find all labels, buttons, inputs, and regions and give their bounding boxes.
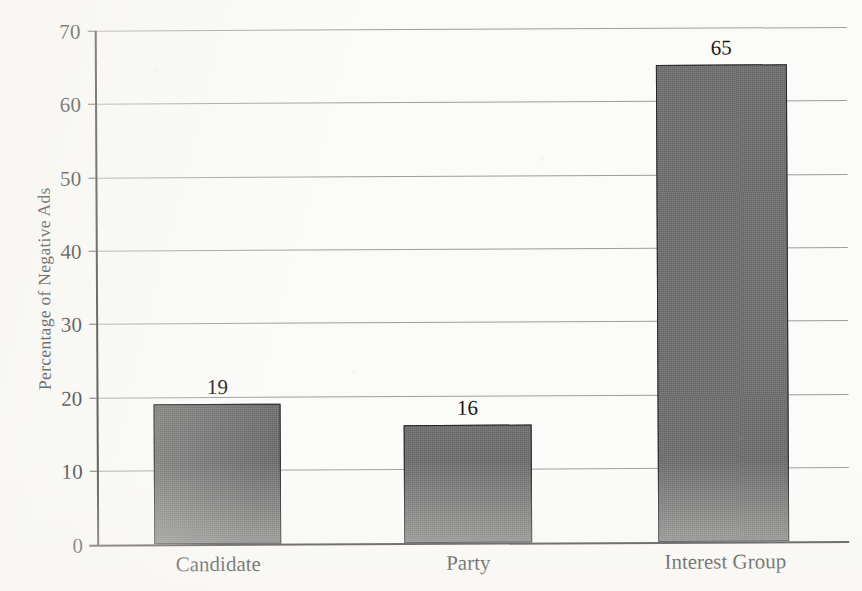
y-axis-line [95, 31, 99, 546]
y-axis-title: Percentage of Negative Ads [36, 159, 55, 419]
bar-value-label-candidate: 19 [156, 377, 278, 399]
gridline-70 [95, 27, 847, 32]
tick-mark-50 [88, 178, 95, 179]
bar-candidate[interactable] [154, 404, 282, 545]
tick-mark-30 [89, 324, 96, 325]
bar-value-label-party: 16 [407, 398, 529, 420]
plot-rotation-wrapper: 70 60 50 40 30 20 10 0 19 16 65 Candidat… [0, 0, 862, 591]
tick-mark-40 [89, 251, 96, 252]
tick-mark-10 [90, 471, 97, 472]
y-tick-label-60: 60 [33, 95, 81, 116]
category-label-party: Party [377, 552, 559, 574]
tick-mark-20 [89, 398, 96, 399]
bar-party[interactable] [404, 425, 533, 544]
y-tick-label-10: 10 [35, 462, 83, 483]
y-tick-label-70: 70 [33, 22, 81, 43]
tick-mark-60 [88, 104, 95, 105]
category-label-interest-group: Interest Group [631, 551, 819, 573]
tick-mark-70 [88, 31, 95, 32]
y-tick-label-0: 0 [35, 536, 83, 557]
category-label-candidate: Candidate [127, 554, 309, 576]
bar-value-label-interest-group: 65 [659, 37, 784, 59]
chart-page: 70 60 50 40 30 20 10 0 19 16 65 Candidat… [0, 0, 862, 591]
bar-interest-group[interactable] [656, 64, 789, 542]
